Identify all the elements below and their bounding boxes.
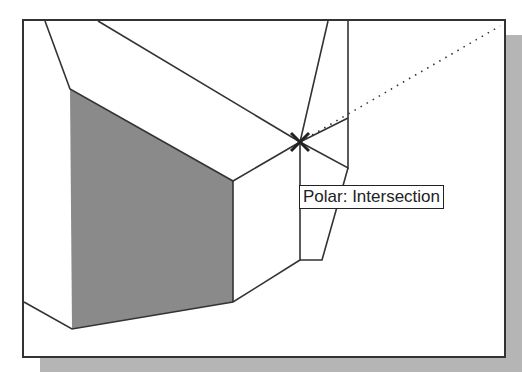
polar-tracking-line	[300, 26, 500, 142]
snap-tooltip: Polar: Intersection	[299, 185, 444, 209]
shaded-face	[70, 89, 233, 329]
